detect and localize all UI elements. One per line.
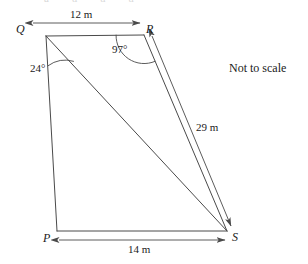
side-QR <box>46 35 144 36</box>
side-RS <box>144 35 227 231</box>
not-to-scale-note: Not to scale <box>229 62 286 74</box>
diagram-canvas <box>0 0 308 264</box>
dim-label-PS: 14 m <box>128 244 150 255</box>
dim-label-QR: 12 m <box>70 9 92 20</box>
dim-arrow-RS <box>152 36 231 226</box>
angle-arc-Q <box>48 60 74 66</box>
geometry-figure: a u u u Q R P S 12 m 29 m <box>0 0 308 264</box>
vertex-label-R: R <box>146 23 153 35</box>
side-PQ <box>46 36 57 231</box>
dim-label-RS: 29 m <box>196 122 218 133</box>
diagonal-QS <box>46 36 227 231</box>
vertex-label-Q: Q <box>16 23 25 35</box>
angle-label-Q: 24° <box>30 63 45 74</box>
angle-label-R: 97° <box>112 44 127 55</box>
vertex-label-S: S <box>232 231 238 243</box>
vertex-label-P: P <box>43 232 50 244</box>
